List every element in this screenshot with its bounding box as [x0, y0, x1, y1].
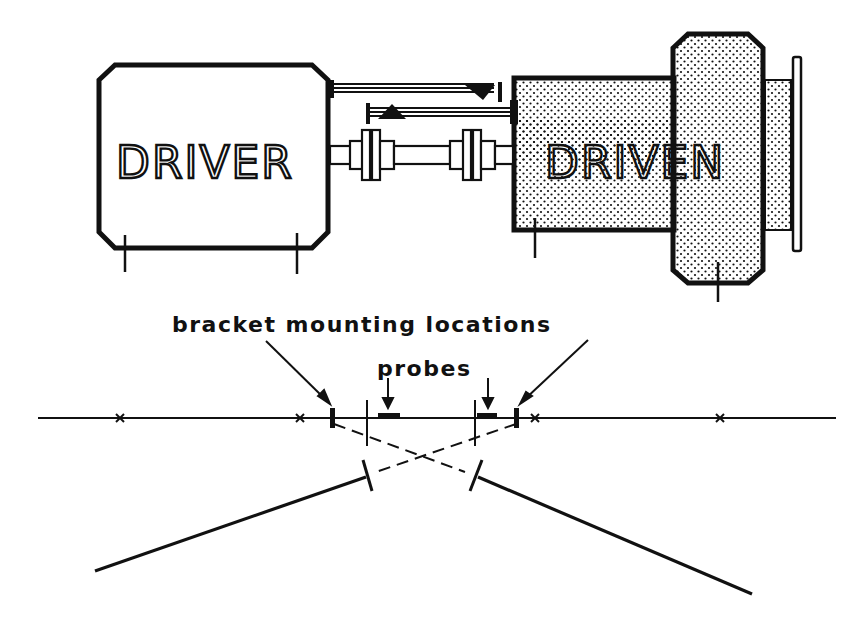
coupling-shaft — [330, 130, 513, 180]
driven-machine: DRIVEN — [514, 34, 801, 302]
driver-machine: DRIVER — [99, 65, 328, 274]
driven-label: DRIVEN — [545, 137, 725, 188]
brackets — [326, 80, 518, 124]
probes-label: probes — [377, 356, 471, 381]
projection-lines — [334, 424, 516, 473]
alignment-diagram: DRIVER DRIVEN — [0, 0, 863, 634]
driver-label: DRIVER — [116, 137, 294, 188]
driven-flange — [793, 57, 801, 251]
bracket-mounting-label: bracket mounting locations — [172, 312, 552, 337]
shaft-projection — [95, 460, 752, 594]
shaft-centerline — [38, 400, 836, 446]
